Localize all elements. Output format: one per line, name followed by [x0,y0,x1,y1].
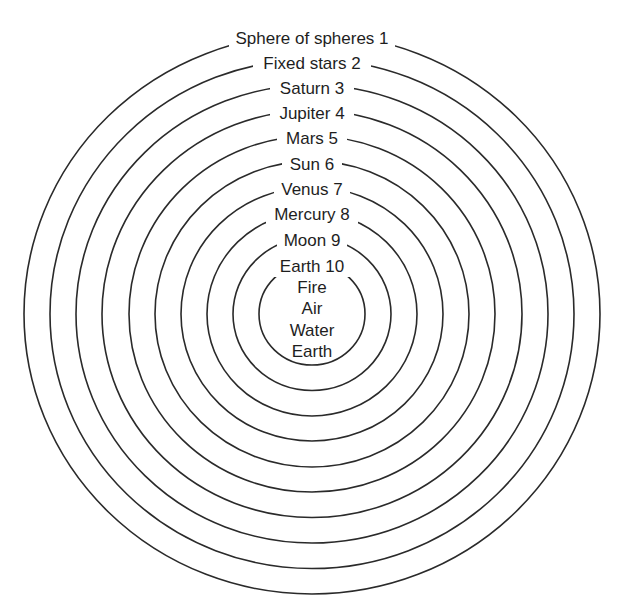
element-label: Water [290,321,335,340]
sphere-label: Moon 9 [284,231,341,250]
concentric-spheres-diagram: Sphere of spheres 1Fixed stars 2Saturn 3… [0,0,619,612]
sphere-label: Jupiter 4 [279,104,344,123]
sphere-label: Mercury 8 [274,205,350,224]
sphere-label: Mars 5 [286,129,338,148]
sphere-label: Fixed stars 2 [263,54,360,73]
element-label: Fire [297,278,326,297]
sphere-label: Sun 6 [290,155,334,174]
element-label: Earth [292,342,333,361]
sphere-label: Venus 7 [281,180,342,199]
sphere-label: Saturn 3 [280,79,344,98]
element-label: Air [302,299,323,318]
sphere-label: Earth 10 [280,257,344,276]
sphere-label: Sphere of spheres 1 [235,29,388,48]
inner-element-labels: FireAirWaterEarth [290,278,335,361]
